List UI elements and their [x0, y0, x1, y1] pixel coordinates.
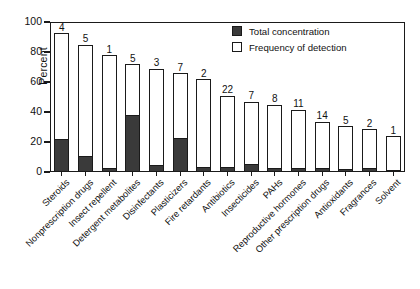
x-axis-label: Reproductive hormones [232, 178, 308, 254]
x-tick-mark [61, 172, 62, 176]
bar-count-label: 2 [201, 69, 207, 80]
bar-group[interactable]: 11 [291, 110, 306, 172]
bar-group[interactable]: 3 [149, 69, 164, 173]
bar-group[interactable]: 1 [102, 55, 117, 172]
bar-count-label: 7 [177, 63, 183, 74]
legend-swatch-light-icon [232, 42, 242, 52]
x-tick-mark [180, 172, 181, 176]
legend-label-frequency-of-detection: Frequency of detection [249, 42, 347, 53]
x-axis-label: Fire retardants [164, 178, 213, 227]
legend-swatch-dark-icon [232, 26, 242, 36]
x-tick-mark [251, 172, 252, 176]
bar-frequency-of-detection[interactable]: 1 [386, 136, 401, 172]
bar-count-label: 1 [106, 45, 112, 56]
x-axis-label: Steroids [41, 178, 72, 209]
bar-frequency-of-detection[interactable]: 5 [125, 64, 140, 172]
bar-group[interactable]: 4 [54, 33, 69, 172]
bar-frequency-of-detection[interactable]: 11 [291, 110, 306, 172]
bar-count-label: 5 [343, 116, 349, 127]
x-axis-label: Nonprescription drugs [24, 178, 95, 249]
bar-total-concentration[interactable] [79, 156, 92, 171]
bar-frequency-of-detection[interactable]: 8 [267, 105, 282, 173]
y-axis-title: Percent [37, 21, 49, 111]
bar-frequency-of-detection[interactable]: 2 [362, 129, 377, 172]
bar-count-label: 3 [154, 58, 160, 69]
x-axis-label: Insecticides [220, 178, 261, 219]
bar-group[interactable]: 22 [220, 96, 235, 173]
bar-frequency-of-detection[interactable]: 7 [173, 73, 188, 172]
x-tick-mark [132, 172, 133, 176]
bar-group[interactable]: 5 [125, 64, 140, 172]
legend-label-total-concentration: Total concentration [249, 26, 330, 37]
bar-total-concentration[interactable] [363, 168, 376, 171]
legend-item-total-concentration: Total concentration [232, 25, 347, 37]
bar-frequency-of-detection[interactable]: 7 [244, 102, 259, 173]
x-tick-mark [109, 172, 110, 176]
x-axis-label: Solvent [374, 178, 403, 207]
bar-total-concentration[interactable] [126, 115, 139, 171]
bar-frequency-of-detection[interactable]: 5 [338, 126, 353, 172]
y-tick-label: 0 [12, 166, 42, 177]
bar-frequency-of-detection[interactable]: 5 [78, 45, 93, 173]
bar-total-concentration[interactable] [268, 168, 281, 171]
bar-total-concentration[interactable] [103, 168, 116, 171]
bar-group[interactable]: 5 [338, 126, 353, 172]
bar-frequency-of-detection[interactable]: 3 [149, 69, 164, 173]
x-tick-mark [322, 172, 323, 176]
legend: Total concentration Frequency of detecti… [232, 25, 347, 57]
x-tick-mark [393, 172, 394, 176]
bar-count-label: 7 [248, 91, 254, 102]
y-tick-label: 40 [12, 106, 42, 117]
chart-root: Percent 020406080100 451537222781114521 … [0, 0, 420, 289]
x-axis-label: Other prescription drugs [255, 178, 332, 255]
x-axis-label: Disinfectants [122, 178, 166, 222]
bar-count-label: 8 [272, 94, 278, 105]
bar-total-concentration[interactable] [221, 167, 234, 172]
x-axis-label: Detergent metabolites [72, 178, 143, 249]
bar-group[interactable]: 2 [362, 129, 377, 172]
x-tick-mark [85, 172, 86, 176]
bar-group[interactable]: 1 [386, 136, 401, 172]
x-tick-mark [369, 172, 370, 176]
legend-item-frequency-of-detection: Frequency of detection [232, 41, 347, 53]
bar-total-concentration[interactable] [245, 164, 258, 172]
bar-total-concentration[interactable] [150, 165, 163, 171]
y-tick-label: 60 [12, 76, 42, 87]
bars-layer: 451537222781114521 [50, 22, 405, 172]
bar-total-concentration[interactable] [292, 168, 305, 171]
bar-frequency-of-detection[interactable]: 2 [196, 79, 211, 172]
bar-total-concentration[interactable] [197, 167, 210, 171]
bar-frequency-of-detection[interactable]: 1 [102, 55, 117, 172]
bar-count-label: 22 [222, 85, 233, 96]
bar-group[interactable]: 7 [244, 102, 259, 173]
bar-count-label: 14 [317, 111, 328, 122]
bar-total-concentration[interactable] [55, 139, 68, 171]
bar-total-concentration[interactable] [387, 170, 400, 172]
x-tick-mark [345, 172, 346, 176]
bar-group[interactable]: 7 [173, 73, 188, 172]
x-axis-label: Plasticizers [150, 178, 190, 218]
x-tick-mark [227, 172, 228, 176]
bar-count-label: 5 [83, 34, 89, 45]
bar-count-label: 2 [367, 119, 373, 130]
bar-total-concentration[interactable] [316, 168, 329, 171]
y-tick-label: 20 [12, 136, 42, 147]
x-axis-label: Insect repellent [68, 178, 119, 229]
x-axis-label: Antioxidants [313, 178, 355, 220]
bar-group[interactable]: 2 [196, 79, 211, 172]
bar-group[interactable]: 5 [78, 45, 93, 173]
bar-count-label: 11 [293, 99, 303, 110]
x-axis-label: PAHs [262, 178, 285, 201]
bar-group[interactable]: 8 [267, 105, 282, 173]
x-tick-mark [298, 172, 299, 176]
x-tick-mark [156, 172, 157, 176]
bar-count-label: 5 [130, 54, 136, 65]
bar-frequency-of-detection[interactable]: 22 [220, 96, 235, 173]
y-tick-label: 100 [12, 16, 42, 27]
bar-frequency-of-detection[interactable]: 4 [54, 33, 69, 172]
bar-group[interactable]: 14 [315, 122, 330, 172]
bar-total-concentration[interactable] [174, 138, 187, 171]
x-axis-label: Antibiotics [201, 178, 238, 215]
bar-frequency-of-detection[interactable]: 14 [315, 122, 330, 172]
bar-total-concentration[interactable] [339, 169, 352, 171]
